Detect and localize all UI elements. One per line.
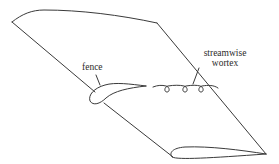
wing-fence-diagram: fence streamwise wortex <box>0 0 279 164</box>
wing-tip-outline <box>12 10 157 23</box>
fence-leader-line <box>96 75 100 85</box>
wing-fence <box>90 83 146 103</box>
wing-leading-edge-outer <box>12 22 95 92</box>
fence-label: fence <box>82 62 103 72</box>
streamwise-vortex <box>153 85 218 92</box>
vortex-label-line2: wortex <box>189 58 261 68</box>
vortex-label-line1: streamwise <box>189 48 261 58</box>
wing-trailing-edge <box>157 23 266 154</box>
wing-leading-edge-inner <box>104 103 173 157</box>
root-airfoil-section <box>171 147 266 159</box>
